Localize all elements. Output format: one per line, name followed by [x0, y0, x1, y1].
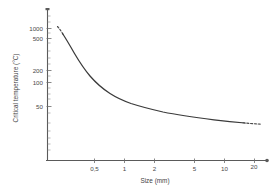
x-tick-label-1: 1 — [123, 165, 127, 172]
x-tick-label-20: 20 — [251, 163, 258, 170]
y-axis-title: Critical temperature (°C) — [12, 54, 20, 123]
chart-canvas: 1000 500 200 100 50 0,5 1 2 5 10 20 Size… — [0, 0, 276, 194]
y-tick-label-100: 100 — [33, 79, 44, 86]
y-tick-label-50: 50 — [36, 103, 43, 110]
x-axis-title: Size (mm) — [140, 177, 169, 185]
curve-dashed-end — [243, 123, 261, 124]
y-tick-label-200: 200 — [33, 67, 44, 74]
y-tick-label-1000: 1000 — [29, 25, 43, 32]
x-tick-label-5: 5 — [193, 165, 197, 172]
x-tick-label-10: 10 — [221, 165, 228, 172]
chart-figure: 1000 500 200 100 50 0,5 1 2 5 10 20 Size… — [0, 0, 276, 194]
y-axis-top-cap — [46, 8, 50, 10]
x-axis-end-cap — [265, 159, 269, 163]
y-tick-label-500: 500 — [33, 35, 44, 42]
x-tick-label-0-5: 0,5 — [90, 165, 99, 172]
curve-main — [63, 34, 246, 124]
x-tick-label-2: 2 — [153, 165, 157, 172]
